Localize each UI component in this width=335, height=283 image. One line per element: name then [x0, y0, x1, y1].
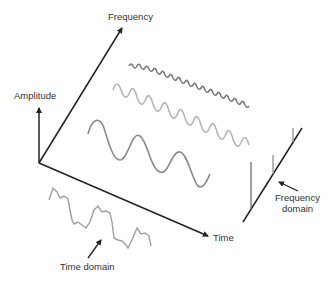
time-axis: [39, 163, 208, 236]
time-frequency-diagram: Amplitude Frequency Time Time domain Fre…: [0, 0, 335, 283]
amplitude-label: Amplitude: [14, 90, 56, 101]
time-label: Time: [213, 232, 234, 243]
frequency-domain-label-line2: domain: [282, 203, 313, 214]
frequency-domain-label-line1: Frequency: [275, 192, 320, 203]
frequency-label: Frequency: [108, 11, 153, 22]
time-domain-signal: [49, 188, 151, 248]
frequency-domain-pointer: [279, 182, 298, 191]
mid-frequency-wave: [113, 84, 249, 146]
time-domain-pointer: [88, 240, 101, 258]
low-frequency-wave: [88, 120, 210, 187]
time-domain-label: Time domain: [60, 261, 115, 272]
high-frequency-wave: [129, 64, 249, 107]
